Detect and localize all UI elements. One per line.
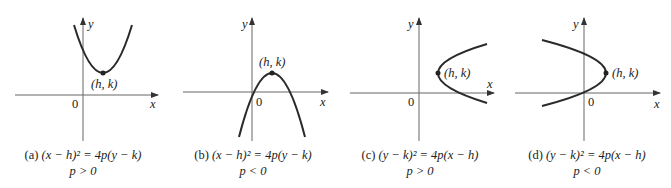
panel-d-vertex-dot (604, 71, 609, 76)
panel-d-graph: y x 0 (h, k) (515, 17, 660, 141)
panel-a-y-label: y (86, 17, 94, 31)
panel-a-equation: (x − h)² = 4p(y − k) (42, 148, 142, 162)
panel-d-parabola (542, 40, 606, 106)
panel-b-y-label: y (240, 17, 248, 31)
panel-b-caption: (b) (x − h)² = 4p(y − k) p < 0 (183, 148, 323, 179)
panel-d-caption: (d) (y − k)² = 4p(x − h) p < 0 (517, 148, 657, 179)
panel-c-y-label: y (406, 17, 414, 31)
panel-c-origin-label: 0 (408, 95, 414, 109)
panel-c-vertex-label: (h, k) (444, 66, 470, 80)
panel-d-vertex-label: (h, k) (612, 66, 638, 80)
panel-a-tag: (a) (25, 148, 39, 162)
panel-b-parabola (239, 73, 305, 137)
panel-a-condition: p > 0 (13, 164, 153, 179)
panel-b-origin-label: 0 (256, 95, 262, 109)
panel-d-origin-label: 0 (588, 95, 594, 109)
panel-d-x-label: x (653, 97, 660, 111)
panel-a-caption: (a) (x − h)² = 4p(y − k) p > 0 (13, 148, 153, 179)
panel-b-vertex-label: (h, k) (259, 55, 285, 69)
panel-b-tag: (b) (194, 148, 209, 162)
panel-c-tag: (c) (362, 148, 376, 162)
panel-a-origin-label: 0 (72, 97, 78, 111)
panel-c-caption: (c) (y − k)² = 4p(x − h) p > 0 (350, 148, 490, 179)
panel-a-graph: y x 0 (h, k) (15, 17, 158, 141)
panel-a-vertex-dot (101, 71, 106, 76)
panel-d-y-label: y (571, 17, 579, 31)
panel-b-graph: y x 0 (h, k) (183, 17, 328, 141)
panel-a-x-label: x (149, 97, 156, 111)
panel-d-tag: (d) (528, 148, 543, 162)
panel-c-vertex-dot (436, 71, 441, 76)
panel-c-graph: y x 0 (h, k) (350, 17, 494, 141)
panel-b-equation: (x − h)² = 4p(y − k) (212, 148, 312, 162)
panel-c-x-label: x (486, 77, 493, 91)
panel-b-x-label: x (319, 95, 326, 109)
panel-a-vertex-label: (h, k) (91, 77, 117, 91)
panel-c-equation: (y − k)² = 4p(x − h) (379, 148, 479, 162)
panel-b-condition: p < 0 (183, 164, 323, 179)
panel-d-equation: (y − k)² = 4p(x − h) (546, 148, 646, 162)
panel-c-condition: p > 0 (350, 164, 490, 179)
panel-b-vertex-dot (270, 71, 275, 76)
panel-d-condition: p < 0 (517, 164, 657, 179)
